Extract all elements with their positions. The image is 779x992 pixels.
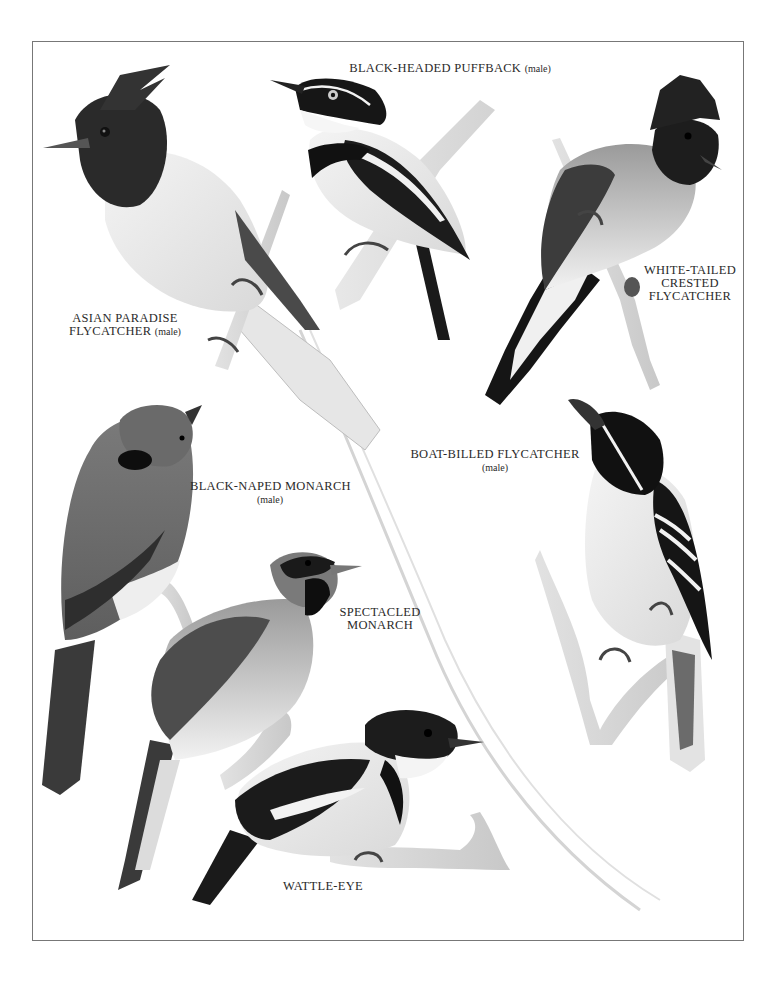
bird-name-line-3: FLYCATCHER — [640, 290, 740, 303]
label-boat-billed-flycatcher: BOAT-BILLED FLYCATCHER (male) — [405, 448, 585, 474]
bird-sex-qualifier: (male) — [190, 493, 350, 506]
bird-name: BLACK-HEADED PUFFBACK — [349, 61, 521, 75]
bird-white-tailed-crested-flycatcher — [485, 75, 722, 405]
label-white-tailed-crested-flycatcher: WHITE-TAILED CRESTED FLYCATCHER — [640, 264, 740, 303]
bird-black-headed-puffback — [270, 78, 495, 340]
bird-sex-qualifier: (male) — [405, 461, 585, 474]
bird-name-line-2: MONARCH — [330, 619, 430, 632]
bird-sex-qualifier: (male) — [155, 326, 181, 337]
label-wattle-eye: WATTLE-EYE — [258, 880, 388, 893]
bird-name: BLACK-NAPED MONARCH — [190, 480, 350, 493]
label-spectacled-monarch: SPECTACLED MONARCH — [330, 606, 430, 632]
bird-name-line-2: FLYCATCHER — [69, 324, 151, 338]
illustration — [0, 0, 779, 992]
bird-name: WATTLE-EYE — [258, 880, 388, 893]
label-black-naped-monarch: BLACK-NAPED MONARCH (male) — [190, 480, 350, 506]
label-asian-paradise-flycatcher: ASIAN PARADISE FLYCATCHER (male) — [40, 312, 210, 338]
label-black-headed-puffback: BLACK-HEADED PUFFBACK (male) — [300, 62, 600, 75]
bird-sex-qualifier: (male) — [525, 63, 551, 74]
bird-name: BOAT-BILLED FLYCATCHER — [405, 448, 585, 461]
